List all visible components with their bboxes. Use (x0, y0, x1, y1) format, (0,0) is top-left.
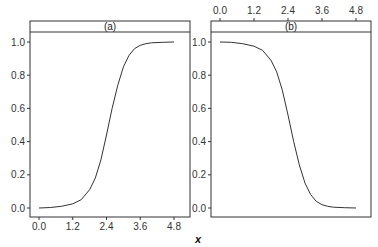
panel-a: (a) 0.00.20.40.60.81.0 0.01.22.43.64.8 (11, 21, 190, 232)
panel-b: (b) 0.00.20.40.60.81.0 0.01.22.43.64.8 (192, 5, 371, 217)
x-tick-label: 3.6 (315, 5, 329, 16)
y-tick-label: 0.6 (192, 103, 206, 114)
y-tick-label: 0.0 (192, 203, 206, 214)
panel-b-x-axis: 0.01.22.43.64.8 (213, 5, 363, 21)
panel-b-curve (220, 42, 356, 208)
panel-a-curve (39, 42, 174, 208)
y-tick-label: 1.0 (11, 37, 25, 48)
x-tick-label: 0.0 (32, 221, 46, 232)
x-tick-label: 1.2 (247, 5, 261, 16)
y-tick-label: 0.4 (11, 136, 25, 147)
y-tick-label: 0.6 (11, 103, 25, 114)
x-tick-label: 0.0 (213, 5, 227, 16)
y-tick-label: 0.4 (192, 136, 206, 147)
x-tick-label: 2.4 (281, 5, 295, 16)
y-tick-label: 0.2 (11, 169, 25, 180)
x-axis-label: x (194, 233, 202, 245)
panel-b-y-axis: 0.00.20.40.60.81.0 (192, 37, 211, 214)
y-tick-label: 0.8 (11, 70, 25, 81)
y-tick-label: 0.2 (192, 169, 206, 180)
y-tick-label: 1.0 (192, 37, 206, 48)
chart-canvas: (a) 0.00.20.40.60.81.0 0.01.22.43.64.8 (… (0, 0, 378, 247)
x-tick-label: 1.2 (66, 221, 80, 232)
y-tick-label: 0.8 (192, 70, 206, 81)
panel-a-strip-label: (a) (104, 21, 116, 32)
panel-b-frame (211, 21, 371, 217)
panel-a-x-axis: 0.01.22.43.64.8 (32, 217, 181, 232)
x-tick-label: 3.6 (133, 221, 147, 232)
x-tick-label: 4.8 (167, 221, 181, 232)
panel-b-strip-label: (b) (285, 21, 297, 32)
panel-a-y-axis: 0.00.20.40.60.81.0 (11, 37, 30, 214)
x-tick-label: 4.8 (349, 5, 363, 16)
y-tick-label: 0.0 (11, 203, 25, 214)
x-tick-label: 2.4 (100, 221, 114, 232)
